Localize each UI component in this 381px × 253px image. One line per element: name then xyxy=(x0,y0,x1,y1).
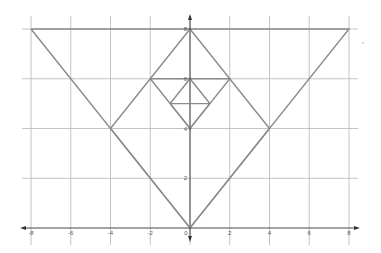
vertex-point xyxy=(189,227,192,230)
x-tick-label: 0 xyxy=(184,230,188,236)
x-tick-label: -2 xyxy=(148,230,154,236)
x-axis-left-arrow-icon xyxy=(20,226,26,230)
vertex-point xyxy=(189,127,192,130)
x-tick-label: 8 xyxy=(347,230,351,236)
vertex-point xyxy=(189,77,192,80)
y-axis-down-arrow-icon xyxy=(188,236,192,242)
x-tick-label: 2 xyxy=(228,230,232,236)
x-tick-label: 6 xyxy=(308,230,312,236)
vertex-point xyxy=(189,28,192,31)
x-tick-label: -8 xyxy=(28,230,34,236)
x-tick-label: 4 xyxy=(268,230,272,236)
x-axis-right-arrow-icon xyxy=(354,226,360,230)
x-tick-label: -4 xyxy=(108,230,114,236)
x-tick-label: -6 xyxy=(68,230,74,236)
stray-dot xyxy=(362,42,364,44)
y-axis-up-arrow-icon xyxy=(188,14,192,20)
coordinate-plane: -8-6-4-2024682468 xyxy=(0,0,381,253)
